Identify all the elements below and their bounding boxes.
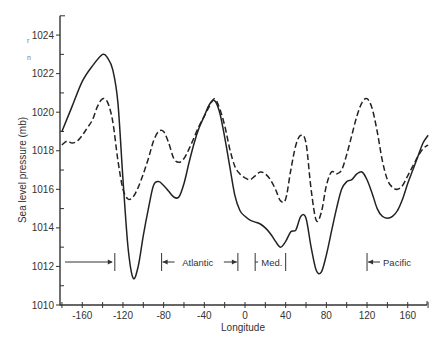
x-tick-label: 40 bbox=[280, 310, 292, 321]
x-tick-label: -160 bbox=[72, 310, 92, 321]
y-tick-label: 1014 bbox=[32, 222, 55, 233]
x-tick-label: 160 bbox=[399, 310, 416, 321]
pressure-chart: r n 10101012101410161018102010221024-160… bbox=[0, 0, 436, 346]
atlantic-label: Atlantic bbox=[182, 257, 213, 268]
y-axis-title: Sea level pressure (mb) bbox=[17, 117, 28, 223]
dashed-pressure-line bbox=[62, 98, 428, 221]
y-tick-label: 1020 bbox=[32, 107, 55, 118]
y-tick-label: 1018 bbox=[32, 145, 55, 156]
x-tick-label: -120 bbox=[113, 310, 133, 321]
x-tick-label: 0 bbox=[242, 310, 248, 321]
data-series bbox=[62, 54, 428, 279]
arrow-left-icon bbox=[163, 260, 168, 265]
arrow-left-icon bbox=[368, 260, 373, 265]
y-tick-label: 1016 bbox=[32, 184, 55, 195]
x-tick-label: 120 bbox=[359, 310, 376, 321]
pacific-label: Pacific bbox=[383, 257, 411, 268]
region-annotations: AtlanticMed.Pacific bbox=[65, 253, 411, 271]
y-tick-label: 1012 bbox=[32, 261, 55, 272]
arrow-right-icon bbox=[232, 260, 237, 265]
x-tick-label: -40 bbox=[197, 310, 212, 321]
y-tick-label: 1010 bbox=[32, 300, 55, 311]
margin-text-fragment: n bbox=[27, 54, 31, 61]
x-tick-label: -80 bbox=[156, 310, 171, 321]
y-tick-label: 1022 bbox=[32, 68, 55, 79]
y-tick-label: 1024 bbox=[32, 30, 55, 41]
margin-text-fragment: r bbox=[27, 37, 30, 44]
x-axis-title: Longitude bbox=[221, 322, 265, 333]
med-label: Med. bbox=[261, 257, 282, 268]
x-tick-label: 80 bbox=[321, 310, 333, 321]
solid-pressure-line bbox=[62, 54, 428, 279]
arrow-right-icon bbox=[108, 260, 113, 265]
